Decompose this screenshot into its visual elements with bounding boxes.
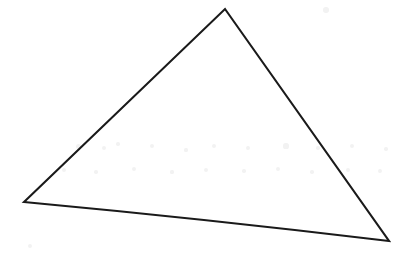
- triangle-figure: [0, 0, 412, 256]
- drawing-canvas: [0, 0, 412, 256]
- triangle-outline: [24, 9, 389, 241]
